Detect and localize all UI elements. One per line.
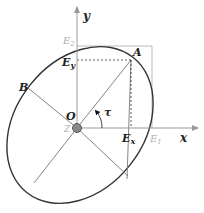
ex-label: Ex [121,132,135,146]
point-b-label: B [18,81,28,94]
e1-label: E1 [149,133,162,146]
tau-label: τ [104,106,112,119]
y-axis-label: y [82,9,91,23]
point-a-label: A [132,46,142,59]
e2-label: E2 [62,35,75,48]
x-axis-label: x [179,131,188,145]
origin-label: O [66,110,76,123]
polarization-ellipse-diagram: y x O Z A B τ Ex Ey E1 E2 [0,0,204,213]
ey-label: Ey [61,56,76,70]
tau-angle-arc [96,111,102,128]
polarization-ellipse [0,18,183,213]
origin-point [73,124,82,133]
ellipse-axes [28,60,131,183]
z-label: Z [63,124,71,134]
